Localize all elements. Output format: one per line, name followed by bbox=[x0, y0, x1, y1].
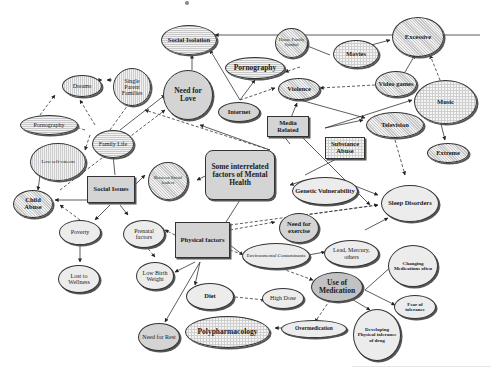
node-lost-to-wellness[interactable]: Lost to Wellness bbox=[58, 265, 100, 293]
node-excessive[interactable]: Excessive bbox=[392, 17, 444, 57]
node-high-dose[interactable]: High Dose bbox=[262, 288, 304, 309]
node-need-for-love[interactable]: Need for Love bbox=[163, 70, 213, 120]
node-sleep-disorders[interactable]: Sleep Disorders bbox=[381, 185, 439, 222]
node-television[interactable]: Television bbox=[366, 112, 424, 138]
node-fear-of-tolerance[interactable]: Fear of tolerance bbox=[394, 295, 436, 319]
node-internet[interactable]: Internet bbox=[218, 102, 260, 122]
node-video-games[interactable]: Video games bbox=[375, 71, 417, 97]
node-overmedication[interactable]: Overmedication bbox=[281, 320, 347, 338]
node-use-of-medication[interactable]: Use of Medication bbox=[311, 272, 363, 302]
node-low-self-esteem[interactable]: Low self-esteem bbox=[30, 143, 86, 181]
node-developing-tolerance[interactable]: Developing Physical tolerance of drug bbox=[353, 309, 401, 361]
center-node[interactable]: Some interrelated factors of Mental Heal… bbox=[205, 150, 275, 200]
node-diet[interactable]: Diet bbox=[186, 283, 234, 310]
node-genetic-vulnerability[interactable]: Genetic Vulnerability bbox=[292, 177, 358, 205]
node-movies[interactable]: Movies bbox=[333, 40, 379, 68]
node-pornography-left[interactable]: Pornography bbox=[20, 115, 78, 135]
node-need-for-rest[interactable]: Need for Rest bbox=[138, 323, 180, 351]
node-polypharmacology[interactable]: Polypharmacology bbox=[185, 316, 270, 348]
node-extreme[interactable]: Extreme bbox=[427, 143, 469, 163]
node-lead-mercury[interactable]: Lead, Mercury, others bbox=[324, 240, 379, 267]
node-need-for-exercise[interactable]: Need for exercise bbox=[279, 213, 319, 243]
node-child-abuse[interactable]: Child Abuse bbox=[13, 190, 53, 218]
node-violence[interactable]: Violence bbox=[278, 78, 320, 100]
hub-physical-factors[interactable]: Physical factors bbox=[175, 222, 230, 258]
node-family-life[interactable]: Family Life bbox=[92, 130, 134, 158]
title-fragment bbox=[185, 1, 189, 5]
hub-media-related[interactable]: Media Related bbox=[267, 116, 309, 137]
node-house-family-symbol[interactable]: House Family Symbol bbox=[275, 28, 308, 58]
node-prenatal-factors[interactable]: Prenatal factors bbox=[123, 220, 165, 248]
hub-social-issues[interactable]: Social Issues bbox=[87, 176, 135, 203]
node-dreams[interactable]: Dreams bbox=[62, 75, 102, 97]
node-music[interactable]: Music bbox=[414, 80, 477, 124]
node-social-isolation[interactable]: Social Isolation bbox=[161, 25, 217, 55]
node-between-social-leaders[interactable]: Between Social leaders bbox=[148, 162, 188, 200]
node-environmental-contaminants[interactable]: Environmental Contaminants bbox=[242, 243, 310, 269]
hub-substance-abuse[interactable]: Substance Abuse bbox=[325, 137, 365, 159]
node-poverty[interactable]: Poverty bbox=[59, 220, 101, 245]
node-single-parent-families[interactable]: Single Parent Families bbox=[113, 68, 151, 106]
bottom-divider bbox=[352, 366, 491, 367]
node-low-birth-weight[interactable]: Low Birth Weight bbox=[136, 262, 174, 290]
node-changing-medications[interactable]: Changing Medications often bbox=[388, 245, 438, 287]
node-pornography-top[interactable]: Pornography bbox=[225, 57, 285, 79]
